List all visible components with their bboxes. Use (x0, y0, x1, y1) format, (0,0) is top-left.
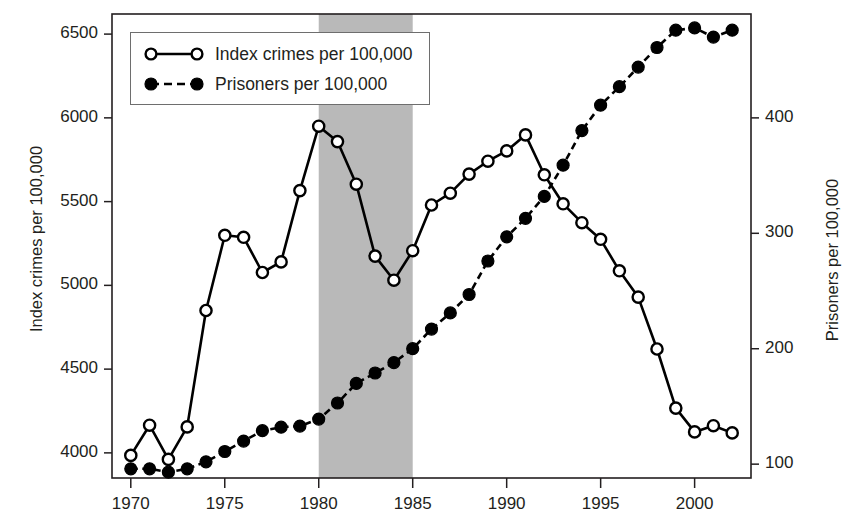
data-point-prisoners (219, 446, 231, 458)
y-axis-right-tick-label: 300 (765, 222, 835, 242)
data-point-prisoners (576, 125, 588, 137)
data-point-prisoners (200, 456, 212, 468)
data-point-prisoners (463, 289, 475, 301)
x-axis-tick-label: 1995 (566, 494, 636, 514)
y-axis-left-tick-label: 4500 (28, 358, 98, 378)
y-axis-right-tick-label: 100 (765, 453, 835, 473)
legend-label-prisoners: Prisoners per 100,000 (215, 69, 387, 99)
data-point-prisoners (332, 397, 344, 409)
data-point-index-crimes (200, 305, 211, 316)
data-point-index-crimes (313, 121, 324, 132)
data-point-prisoners (538, 190, 550, 202)
data-point-index-crimes (670, 403, 681, 414)
data-point-index-crimes (464, 169, 475, 180)
data-point-prisoners (632, 61, 644, 73)
chart-figure: Index crimes per 100,000 Prisoners per 1… (0, 0, 844, 532)
data-point-prisoners (238, 435, 250, 447)
data-point-index-crimes (163, 454, 174, 465)
data-point-index-crimes (388, 275, 399, 286)
legend-swatch-open-circle-line (137, 39, 217, 69)
data-point-prisoners (275, 421, 287, 433)
data-point-prisoners (613, 81, 625, 93)
data-point-prisoners (557, 159, 569, 171)
data-point-index-crimes (370, 251, 381, 262)
data-point-prisoners (726, 24, 738, 36)
data-point-index-crimes (689, 426, 700, 437)
data-point-index-crimes (426, 199, 437, 210)
data-point-index-crimes (351, 179, 362, 190)
data-point-prisoners (388, 357, 400, 369)
data-point-index-crimes (520, 129, 531, 140)
data-point-prisoners (426, 323, 438, 335)
data-point-index-crimes (407, 245, 418, 256)
legend-swatch-filled-circle-dashed (137, 69, 217, 99)
data-point-prisoners (651, 42, 663, 54)
data-point-index-crimes (276, 256, 287, 267)
data-point-prisoners (501, 231, 513, 243)
data-point-index-crimes (576, 217, 587, 228)
x-axis-tick-label: 1980 (284, 494, 354, 514)
data-point-index-crimes (219, 230, 230, 241)
data-point-index-crimes (539, 169, 550, 180)
y-axis-right-tick-label: 200 (765, 338, 835, 358)
data-point-prisoners (520, 212, 532, 224)
y-axis-left-tick-label: 5000 (28, 274, 98, 294)
data-point-prisoners (707, 31, 719, 43)
y-axis-right-tick-label: 400 (765, 107, 835, 127)
data-point-prisoners (162, 466, 174, 478)
x-axis-tick-label: 2000 (660, 494, 730, 514)
data-point-index-crimes (125, 450, 136, 461)
data-point-prisoners (181, 463, 193, 475)
legend-item-prisoners: Prisoners per 100,000 (131, 69, 431, 99)
data-point-index-crimes (651, 343, 662, 354)
data-point-prisoners (444, 307, 456, 319)
data-point-index-crimes (182, 421, 193, 432)
data-point-index-crimes (257, 267, 268, 278)
data-point-index-crimes (482, 156, 493, 167)
chart-legend: Index crimes per 100,000 Prisoners per 1… (130, 32, 430, 105)
data-point-index-crimes (708, 420, 719, 431)
x-axis-tick-label: 1985 (378, 494, 448, 514)
data-point-index-crimes (445, 188, 456, 199)
data-point-index-crimes (238, 232, 249, 243)
data-point-index-crimes (614, 265, 625, 276)
data-point-prisoners (689, 22, 701, 34)
y-axis-left-tick-label: 6500 (28, 23, 98, 43)
y-axis-left-tick-label: 6000 (28, 107, 98, 127)
data-point-index-crimes (501, 145, 512, 156)
data-point-prisoners (256, 425, 268, 437)
legend-label-index-crimes: Index crimes per 100,000 (215, 39, 412, 69)
legend-item-index-crimes: Index crimes per 100,000 (131, 39, 431, 69)
data-point-prisoners (407, 343, 419, 355)
data-point-prisoners (313, 413, 325, 425)
data-point-prisoners (294, 420, 306, 432)
data-point-index-crimes (294, 185, 305, 196)
x-axis-tick-label: 1970 (96, 494, 166, 514)
data-point-prisoners (350, 377, 362, 389)
data-point-index-crimes (332, 136, 343, 147)
data-point-prisoners (369, 367, 381, 379)
data-point-prisoners (144, 463, 156, 475)
data-point-prisoners (482, 255, 494, 267)
data-point-index-crimes (633, 292, 644, 303)
y-axis-left-tick-label: 4000 (28, 442, 98, 462)
data-point-prisoners (670, 24, 682, 36)
data-point-prisoners (595, 99, 607, 111)
x-axis-tick-label: 1975 (190, 494, 260, 514)
data-point-index-crimes (144, 420, 155, 431)
data-point-index-crimes (595, 234, 606, 245)
data-point-prisoners (125, 463, 137, 475)
x-axis-tick-label: 1990 (472, 494, 542, 514)
data-point-index-crimes (558, 198, 569, 209)
y-axis-left-tick-label: 5500 (28, 191, 98, 211)
data-point-index-crimes (727, 427, 738, 438)
